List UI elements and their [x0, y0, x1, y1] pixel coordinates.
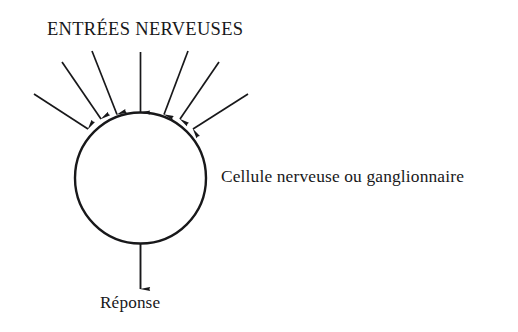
nerve-input-arrow-3 [92, 51, 117, 115]
nerve-cell-circle [75, 113, 206, 244]
figure-title: ENTRÉES NERVEUSES [47, 20, 243, 39]
nerve-input-arrow-6 [180, 62, 219, 119]
nerve-input-arrow-2 [62, 62, 101, 119]
nerve-input-arrow-7 [193, 94, 248, 129]
figure-root: ENTRÉES NERVEUSES Cellule nerveuse ou ga… [0, 0, 518, 332]
nerve-input-arrow-1 [34, 94, 88, 129]
response-label: Réponse [100, 294, 160, 311]
nerve-cell-circle-group [75, 113, 206, 244]
input-arrows-group [34, 51, 248, 129]
cell-body-label: Cellule nerveuse ou ganglionnaire [221, 168, 464, 185]
nerve-input-arrow-5 [164, 51, 188, 115]
